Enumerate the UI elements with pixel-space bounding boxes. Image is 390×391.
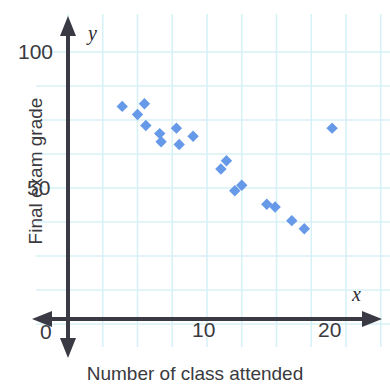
x-axis-tick-20: 20 <box>318 318 341 342</box>
data-point <box>187 131 198 142</box>
y-axis-arrow-up-icon <box>60 16 76 36</box>
data-point <box>155 136 166 147</box>
y-axis-title: Final exam grade <box>25 61 47 281</box>
x-axis-tick-10: 10 <box>192 318 215 342</box>
data-point <box>174 139 185 150</box>
x-axis-title: Number of class attended <box>0 363 390 385</box>
data-point <box>299 223 310 234</box>
data-point <box>286 215 297 226</box>
data-point <box>139 98 150 109</box>
data-point-group <box>117 98 338 235</box>
gridlines-vertical <box>68 14 381 347</box>
data-point <box>140 120 151 131</box>
x-axis-symbol: x <box>352 283 361 306</box>
data-point <box>215 163 226 174</box>
origin-label: 0 <box>40 320 52 344</box>
gridlines-horizontal <box>36 52 390 324</box>
data-point <box>132 109 143 120</box>
data-point <box>221 155 232 166</box>
data-point <box>326 122 337 133</box>
y-axis-symbol: y <box>88 22 97 45</box>
data-point <box>117 101 128 112</box>
y-axis-arrow-down-icon <box>60 338 76 358</box>
scatter-chart: 100 50 10 20 0 y x Final exam grade Numb… <box>0 0 390 391</box>
